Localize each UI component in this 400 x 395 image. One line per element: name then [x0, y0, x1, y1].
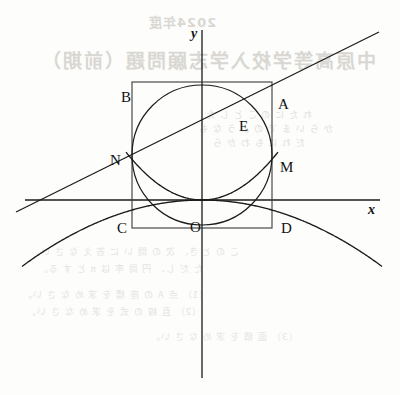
point-label-N: N [110, 152, 121, 169]
point-label-B: B [121, 89, 131, 106]
point-label-C: C [117, 220, 127, 237]
diagonal-secant-line [16, 32, 379, 212]
y-axis-label: y [191, 26, 197, 42]
point-label-A: A [278, 96, 289, 113]
x-axis-label: x [368, 202, 375, 218]
figure-canvas [0, 0, 400, 395]
point-label-M: M [280, 159, 293, 176]
point-label-O: O [190, 219, 201, 236]
geometry-figure: 2024年度 中原高等学校入学志願問題（前期） れ た に の こ と し た … [0, 0, 400, 395]
point-label-D: D [281, 220, 292, 237]
point-label-E: E [239, 118, 248, 135]
